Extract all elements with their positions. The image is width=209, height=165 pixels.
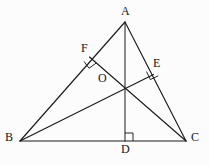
vertex-label-b: B — [5, 131, 13, 143]
vertex-label-d: D — [121, 143, 130, 155]
vertex-label-o: O — [98, 72, 107, 84]
segment-ac — [125, 22, 186, 141]
segment-ab — [20, 22, 125, 141]
segment-altitude-be — [20, 75, 154, 142]
vertex-label-c: C — [191, 131, 199, 143]
right-angle-at-d — [125, 133, 133, 141]
vertex-label-a: A — [121, 5, 130, 17]
vertex-label-e: E — [153, 57, 161, 69]
right-angle-at-f — [84, 61, 96, 68]
geometry-figure: A B C D E F O — [0, 0, 209, 165]
vertex-label-f: F — [81, 42, 88, 54]
